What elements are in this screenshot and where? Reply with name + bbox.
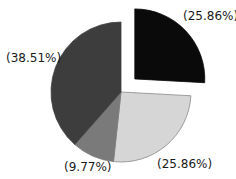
- pie-slices: [51, 9, 205, 162]
- slice-label-4: (38.51%): [6, 51, 61, 65]
- slice-label-1: (25.86%): [183, 9, 236, 23]
- slice-label-2: (25.86%): [157, 157, 212, 171]
- pie-slice-2: [113, 92, 190, 162]
- slice-label-3: (9.77%): [64, 160, 111, 174]
- pie-chart: (25.86%) (25.86%) (9.77%) (38.51%): [0, 0, 236, 179]
